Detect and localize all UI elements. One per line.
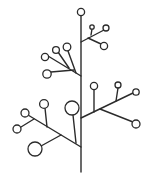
node-circle xyxy=(21,109,29,117)
node-circle xyxy=(63,43,71,51)
node-circle xyxy=(132,120,140,128)
node-circle xyxy=(77,8,84,15)
branching-tree-graphic xyxy=(0,0,150,177)
branch-upper-left xyxy=(51,70,74,72)
node-circle xyxy=(40,100,49,109)
tree-diagram xyxy=(0,0,150,177)
node-circle xyxy=(133,89,139,95)
branch-lower-left xyxy=(73,115,76,143)
branch-lower-right xyxy=(116,88,118,101)
node-circle xyxy=(65,101,79,115)
node-circle xyxy=(53,47,60,54)
branch-nodes xyxy=(13,8,140,156)
node-circle xyxy=(90,25,94,29)
node-circle xyxy=(115,82,121,88)
node-circle xyxy=(43,70,51,78)
node-circle xyxy=(41,53,48,60)
branch-upper-right xyxy=(88,38,101,44)
branch-lower-left xyxy=(21,119,34,127)
node-circle xyxy=(13,125,21,133)
branch-lower-right xyxy=(100,109,133,122)
node-circle xyxy=(100,42,107,49)
branch-upper-right xyxy=(91,29,92,35)
branch-lower-left xyxy=(45,108,47,127)
node-circle xyxy=(90,82,97,89)
node-circle xyxy=(103,25,109,31)
branch-lower-left xyxy=(41,135,61,146)
node-circle xyxy=(28,142,42,156)
branch-lower-right xyxy=(81,93,133,118)
